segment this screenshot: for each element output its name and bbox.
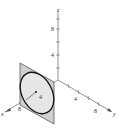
- y-tick-4: 4: [74, 96, 77, 102]
- z-tick-8: 8: [51, 26, 54, 32]
- disk-center: [35, 91, 37, 93]
- x-tick-8: 8: [18, 106, 21, 112]
- x-axis-label: x: [0, 111, 4, 117]
- y-axis-label: y: [112, 111, 116, 117]
- y-tick-8: 8: [94, 108, 97, 114]
- y-axis-arrow-icon: [107, 108, 112, 112]
- diagram-canvas: z 8 4 y 4 8 x 4 8: [0, 0, 128, 135]
- y-axis: [58, 80, 112, 112]
- radius-label: 4: [39, 94, 42, 100]
- z-tick-4: 4: [51, 52, 54, 58]
- z-axis-label: z: [56, 7, 60, 13]
- x-axis-arrow-icon: [5, 108, 11, 112]
